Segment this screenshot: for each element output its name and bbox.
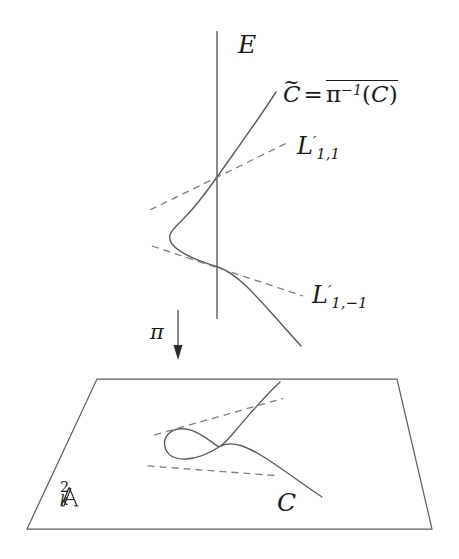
l-upper-subscript: 1,1 <box>316 145 340 163</box>
label-resolved-curve: ~C=π−1(C) <box>283 78 398 106</box>
label-projection-map: π <box>150 322 164 343</box>
label-plane-curve: C <box>277 490 296 515</box>
label-affine-plane: 2k <box>60 486 74 513</box>
plane-subscript: k <box>60 493 69 507</box>
c-tilde-group: ~C <box>283 83 301 106</box>
affine-plane-outline <box>27 379 432 529</box>
paren-open: ( <box>362 81 371 107</box>
label-exceptional-divisor: E <box>238 32 256 57</box>
plane-tangent-upper-dashed <box>152 398 286 435</box>
plane-tangent-lower-dashed <box>148 453 279 489</box>
plane-exponent-group: 2k <box>60 486 74 509</box>
plane-curve-text: C <box>277 488 296 517</box>
l-upper-base: L <box>297 132 313 160</box>
projection-arrow-head <box>174 345 183 360</box>
closure-overline-group: π−1(C) <box>326 80 398 106</box>
nodal-curve-path <box>165 382 322 497</box>
paren-close: ) <box>389 81 398 107</box>
pi-inverse-exponent: −1 <box>341 82 362 98</box>
l-lower-subscript: 1,−1 <box>331 294 367 312</box>
equals-sign: = <box>301 81 326 107</box>
tilde-accent: ~ <box>283 73 299 93</box>
l-lower-base: L <box>312 281 328 309</box>
label-tangent-line-lower: L′1,−1 <box>312 283 367 307</box>
pi-map-text: π <box>150 320 164 344</box>
resolved-curve-path <box>170 92 301 346</box>
tangent-line-upper-dashed <box>150 142 289 210</box>
label-e-text: E <box>238 30 256 59</box>
closure-argument: C <box>371 81 389 107</box>
figure-canvas: E ~C=π−1(C) L′1,1 L′1,−1 π <box>0 0 459 559</box>
pi-symbol: π <box>326 81 341 107</box>
label-tangent-line-upper: L′1,1 <box>297 134 340 158</box>
